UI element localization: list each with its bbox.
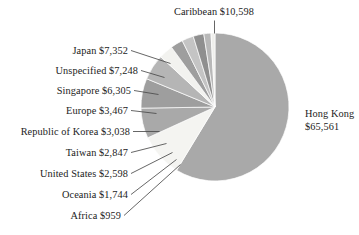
slice-label-korea: Republic of Korea $3,038	[21, 126, 130, 137]
slice-label-hong-kong-name: Hong Kong	[305, 108, 354, 119]
slice-label-caribbean: Caribbean $10,598	[174, 6, 254, 17]
leader-line-oceania	[131, 160, 177, 195]
leader-line-africa	[124, 165, 181, 216]
pie-chart-figure: Caribbean $10,598 Japan $7,352 Unspecifi…	[0, 0, 359, 235]
pie-chart-svg: Caribbean $10,598 Japan $7,352 Unspecifi…	[0, 0, 359, 235]
slice-label-singapore: Singapore $6,305	[57, 85, 131, 96]
slice-label-europe: Europe $3,467	[66, 105, 128, 116]
pie-slices-group	[141, 33, 289, 181]
slice-label-oceania: Oceania $1,744	[62, 189, 128, 200]
slice-label-taiwan: Taiwan $2,847	[66, 147, 128, 158]
slice-label-africa: Africa $959	[70, 210, 121, 221]
slice-label-japan: Japan $7,352	[72, 45, 128, 56]
slice-label-hong-kong-value: $65,561	[305, 121, 339, 132]
slice-label-united-states: United States $2,598	[40, 168, 128, 179]
slice-label-unspecified: Unspecified $7,248	[56, 65, 138, 76]
